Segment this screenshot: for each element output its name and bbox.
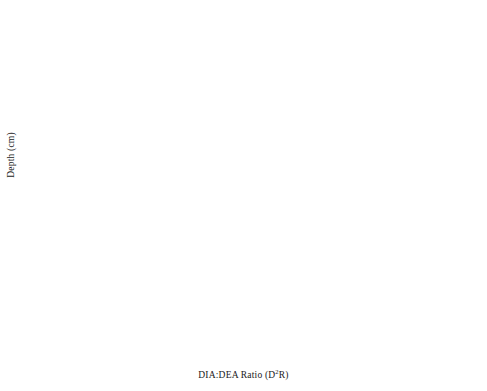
figure-container: Depth (cm) DIA:DEA Ratio (D2R) — [0, 0, 487, 391]
y-axis-label: Depth (cm) — [6, 110, 16, 200]
x-axis-label: DIA:DEA Ratio (D2R) — [0, 368, 487, 380]
x-axis-label-tail: R) — [279, 370, 289, 380]
x-axis-label-main: DIA:DEA Ratio (D — [198, 370, 275, 380]
